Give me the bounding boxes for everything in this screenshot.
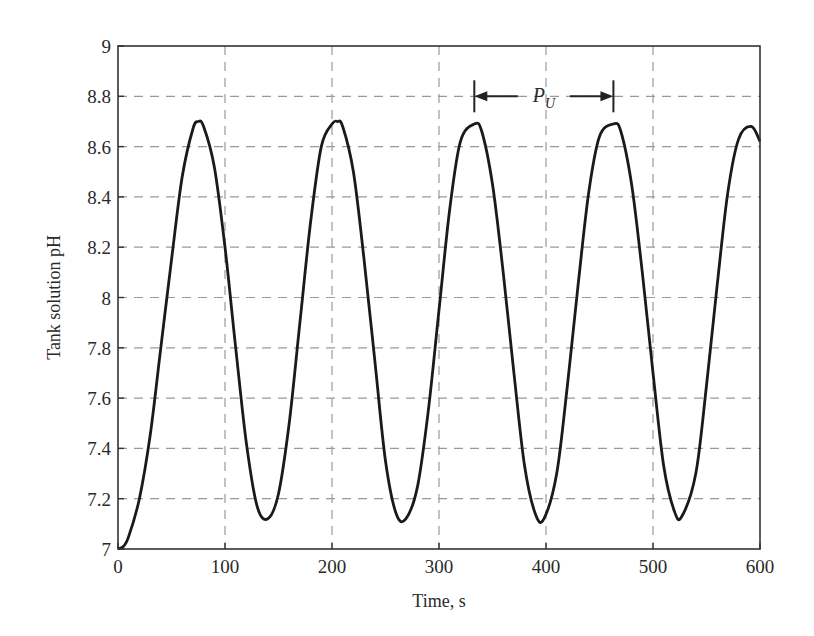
y-tick-label: 7.2: [87, 489, 111, 510]
y-tick-label: 8.4: [87, 187, 111, 208]
y-tick-label: 7: [102, 539, 112, 560]
y-tick-label: 7.6: [87, 388, 111, 409]
x-tick-label: 200: [318, 556, 347, 577]
x-tick-label: 100: [211, 556, 240, 577]
x-axis-label: Time, s: [412, 591, 465, 611]
y-tick-label: 8: [102, 288, 112, 309]
x-tick-label: 300: [425, 556, 454, 577]
period-label-subscript: U: [545, 96, 556, 111]
arrowhead-right-icon: [600, 91, 613, 101]
y-tick-label: 7.8: [87, 338, 111, 359]
y-tick-label: 8.2: [87, 237, 111, 258]
chart: 010020030040050060077.27.47.67.888.28.48…: [0, 0, 814, 636]
y-tick-label: 8.8: [87, 86, 111, 107]
y-tick-label: 8.6: [87, 137, 111, 158]
arrowhead-left-icon: [474, 91, 487, 101]
y-tick-label: 9: [102, 36, 112, 57]
period-label-main: P: [532, 84, 545, 106]
period-label: PU: [532, 84, 556, 111]
axis-ticks: 010020030040050060077.27.47.67.888.28.48…: [87, 36, 774, 577]
x-tick-label: 0: [113, 556, 123, 577]
period-annotation: PU: [474, 80, 613, 112]
x-tick-label: 500: [639, 556, 668, 577]
y-tick-label: 7.4: [87, 438, 111, 459]
y-axis-label: Tank solution pH: [44, 235, 64, 360]
x-tick-label: 600: [746, 556, 775, 577]
x-tick-label: 400: [532, 556, 561, 577]
